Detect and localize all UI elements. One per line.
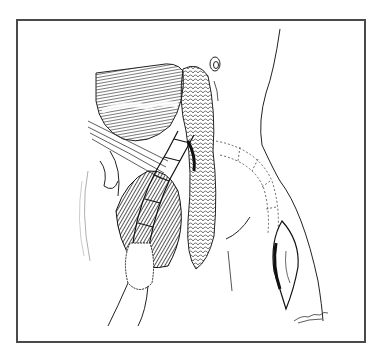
vessel-loops xyxy=(100,151,119,196)
surgical-illustration xyxy=(18,21,364,341)
illustration-frame xyxy=(16,19,366,343)
shoulder-lines xyxy=(226,217,250,291)
textured-strap xyxy=(181,66,216,269)
muscle-flap xyxy=(96,64,183,141)
ear xyxy=(210,57,220,71)
tunneled-graft xyxy=(216,141,278,233)
chest-incision xyxy=(273,221,298,309)
